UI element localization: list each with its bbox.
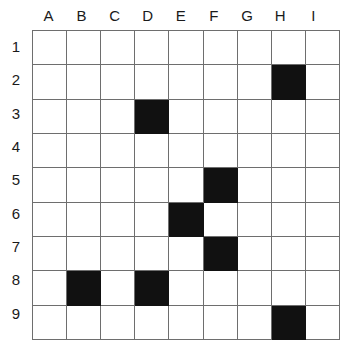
grid-figure: A B C D E F G H I 1 2 3 4 5 6 7 8 9 [0,0,353,354]
grid-row-2 [33,65,340,99]
grid-cell-G1[interactable] [237,31,271,65]
grid-cell-H9[interactable] [271,305,305,339]
grid-cell-I6[interactable] [305,202,339,236]
grid-cell-I4[interactable] [305,133,339,167]
row-header-4: 4 [2,130,30,163]
column-header-f: F [198,4,231,28]
grid-cell-H5[interactable] [271,168,305,202]
grid-cell-E5[interactable] [169,168,203,202]
grid-cell-I5[interactable] [305,168,339,202]
grid-cell-G3[interactable] [237,99,271,133]
grid-cell-B5[interactable] [67,168,101,202]
grid-cell-D5[interactable] [135,168,169,202]
grid-cell-G5[interactable] [237,168,271,202]
grid-cell-B6[interactable] [67,202,101,236]
grid-cell-A6[interactable] [33,202,67,236]
grid-cell-F5[interactable] [203,168,237,202]
grid-cell-B1[interactable] [67,31,101,65]
grid-cell-C2[interactable] [101,65,135,99]
grid-cell-B4[interactable] [67,133,101,167]
grid-cell-F3[interactable] [203,99,237,133]
grid-cell-A4[interactable] [33,133,67,167]
grid-cell-A9[interactable] [33,305,67,339]
row-header-2: 2 [2,63,30,96]
grid-cell-E9[interactable] [169,305,203,339]
grid-cell-F1[interactable] [203,31,237,65]
grid-cell-B9[interactable] [67,305,101,339]
grid-cell-A8[interactable] [33,271,67,305]
grid-cell-A1[interactable] [33,31,67,65]
grid-cell-E4[interactable] [169,133,203,167]
column-header-c: C [98,4,131,28]
grid-cell-F6[interactable] [203,202,237,236]
grid-cell-A2[interactable] [33,65,67,99]
grid-cell-F4[interactable] [203,133,237,167]
grid-cell-C6[interactable] [101,202,135,236]
grid-cell-B8[interactable] [67,271,101,305]
grid-cell-G9[interactable] [237,305,271,339]
column-header-i: I [297,4,330,28]
grid-cell-I7[interactable] [305,236,339,270]
grid-cell-G7[interactable] [237,236,271,270]
grid-cell-E2[interactable] [169,65,203,99]
grid-cell-C7[interactable] [101,236,135,270]
grid-cell-D2[interactable] [135,65,169,99]
grid-cell-E6[interactable] [169,202,203,236]
grid-cell-C1[interactable] [101,31,135,65]
grid-cell-D1[interactable] [135,31,169,65]
grid-cell-G2[interactable] [237,65,271,99]
grid-cell-D4[interactable] [135,133,169,167]
grid-cell-F8[interactable] [203,271,237,305]
grid-cell-E8[interactable] [169,271,203,305]
row-header-3: 3 [2,97,30,130]
grid-row-5 [33,168,340,202]
grid-cell-B7[interactable] [67,236,101,270]
grid-cell-I3[interactable] [305,99,339,133]
grid-cell-A7[interactable] [33,236,67,270]
grid-cell-I1[interactable] [305,31,339,65]
grid-cell-B3[interactable] [67,99,101,133]
grid-cell-H1[interactable] [271,31,305,65]
grid-row-1 [33,31,340,65]
row-header-7: 7 [2,230,30,263]
grid-cell-H6[interactable] [271,202,305,236]
column-header-h: H [264,4,297,28]
grid-cell-I9[interactable] [305,305,339,339]
grid-cell-C9[interactable] [101,305,135,339]
grid-cell-D3[interactable] [135,99,169,133]
grid-cell-A3[interactable] [33,99,67,133]
grid-cell-F2[interactable] [203,65,237,99]
grid-cell-D9[interactable] [135,305,169,339]
row-header-6: 6 [2,197,30,230]
grid-row-7 [33,236,340,270]
grid-cell-H3[interactable] [271,99,305,133]
grid-cell-G6[interactable] [237,202,271,236]
grid-cell-A5[interactable] [33,168,67,202]
grid-cell-I2[interactable] [305,65,339,99]
row-header-1: 1 [2,30,30,63]
grid-cell-F7[interactable] [203,236,237,270]
grid-cell-H4[interactable] [271,133,305,167]
grid-cell-E3[interactable] [169,99,203,133]
grid-cell-H8[interactable] [271,271,305,305]
grid-cell-C4[interactable] [101,133,135,167]
grid-cell-C8[interactable] [101,271,135,305]
column-header-b: B [65,4,98,28]
grid-cell-E7[interactable] [169,236,203,270]
grid-cell-G8[interactable] [237,271,271,305]
grid-cell-G4[interactable] [237,133,271,167]
grid-cell-C5[interactable] [101,168,135,202]
grid-cell-H7[interactable] [271,236,305,270]
grid-cell-H2[interactable] [271,65,305,99]
grid-cell-D7[interactable] [135,236,169,270]
grid-row-6 [33,202,340,236]
column-header-d: D [131,4,164,28]
grid-cell-I8[interactable] [305,271,339,305]
column-header-e: E [164,4,197,28]
grid-cell-F9[interactable] [203,305,237,339]
grid-cell-D8[interactable] [135,271,169,305]
grid-cell-E1[interactable] [169,31,203,65]
grid-cell-C3[interactable] [101,99,135,133]
grid-cell-B2[interactable] [67,65,101,99]
grid-cell-D6[interactable] [135,202,169,236]
